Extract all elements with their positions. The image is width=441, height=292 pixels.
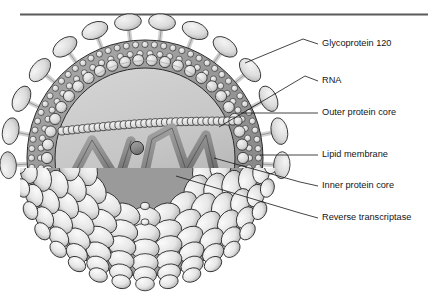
hiv-virion-diagram: Glycoprotein 120RNAOuter protein coreLip… bbox=[0, 0, 441, 292]
virion-body bbox=[0, 12, 291, 291]
leader-line-glycoprotein-120 bbox=[245, 39, 318, 63]
glycoprotein-spike bbox=[231, 54, 265, 86]
reverse-transcriptase bbox=[130, 141, 143, 154]
label-outer-protein-core: Outer protein core bbox=[322, 107, 396, 117]
glycoprotein-spike bbox=[25, 54, 59, 86]
capsomer-accent bbox=[141, 219, 149, 225]
label-lipid-membrane: Lipid membrane bbox=[322, 149, 388, 159]
label-reverse-transcriptase: Reverse transcriptase bbox=[322, 212, 411, 222]
figure-canvas: Glycoprotein 120RNAOuter protein coreLip… bbox=[0, 0, 441, 292]
capsomer bbox=[136, 277, 155, 291]
label-rna: RNA bbox=[322, 75, 342, 85]
capsomer-accent bbox=[141, 202, 150, 209]
label-text-group: Glycoprotein 120RNAOuter protein coreLip… bbox=[322, 38, 411, 222]
label-glycoprotein-120: Glycoprotein 120 bbox=[322, 38, 391, 48]
label-inner-protein-core: Inner protein core bbox=[322, 180, 394, 190]
